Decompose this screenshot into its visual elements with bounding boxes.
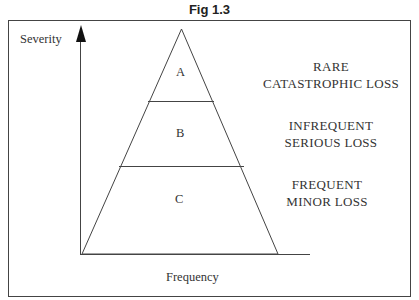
tier-b-description-line1: INFREQUENT [256,117,406,134]
tier-c-description-line1: FREQUENT [252,176,402,193]
tier-a-description-line1: RARE [256,58,406,75]
tier-b-description: INFREQUENT SERIOUS LOSS [256,117,406,151]
pyramid-outline [82,29,278,254]
x-axis-label: Frequency [166,270,219,285]
tier-a-description-line2: CATASTROPHIC LOSS [256,75,406,92]
y-axis-label: Severity [20,32,62,47]
y-axis-arrowhead [76,25,86,42]
tier-a-description: RARE CATASTROPHIC LOSS [256,58,406,92]
tier-b-label: B [176,126,184,141]
tier-c-label: C [175,192,183,207]
tier-b-description-line2: SERIOUS LOSS [256,134,406,151]
tier-c-description-line2: MINOR LOSS [252,193,402,210]
tier-a-label: A [176,65,185,80]
tier-c-description: FREQUENT MINOR LOSS [252,176,402,210]
